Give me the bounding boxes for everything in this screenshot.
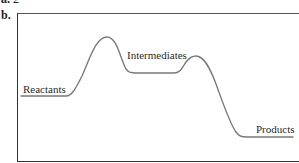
stage-label-intermediates: Intermediates (127, 50, 187, 61)
stage-label-reactants: Reactants (23, 84, 66, 95)
stage-label-products: Products (256, 124, 295, 135)
energy-profile-curve (0, 0, 299, 163)
